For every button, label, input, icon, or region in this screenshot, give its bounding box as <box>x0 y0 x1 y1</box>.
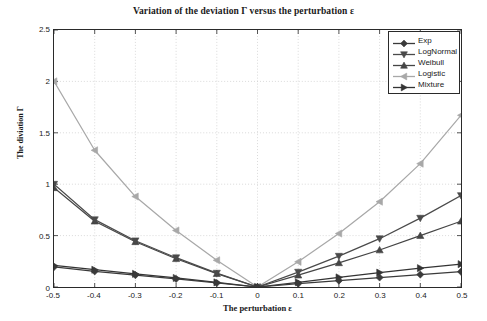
legend-marker-triangle-up-icon <box>392 57 416 68</box>
x-tick-label: -0.1 <box>195 291 239 300</box>
legend-label: Weibull <box>416 58 444 67</box>
x-axis-label: The perturbation ε <box>53 303 462 313</box>
legend-label: Exp <box>416 36 432 45</box>
x-tick-label: 0.5 <box>440 291 484 300</box>
x-tick-label: 0.1 <box>276 291 320 300</box>
x-tick-label: 0.2 <box>317 291 361 300</box>
y-tick-label: 0.5 <box>2 232 50 241</box>
legend[interactable]: ExpLogNormalWeibullLogisticMixture <box>388 31 460 94</box>
legend-marker-diamond-icon <box>392 35 416 46</box>
legend-label: Mixture <box>416 80 444 89</box>
legend-label: LogNormal <box>416 47 457 56</box>
legend-marker-triangle-left-icon <box>392 68 416 79</box>
series-exp <box>54 263 461 287</box>
legend-item-logistic[interactable]: Logistic <box>392 68 455 79</box>
y-axis-tick-labels: 00.511.522.5 <box>0 29 50 288</box>
x-tick-label: 0 <box>236 291 280 300</box>
x-tick-label: 0.4 <box>399 291 443 300</box>
x-tick-label: -0.4 <box>72 291 116 300</box>
x-tick-label: -0.3 <box>113 291 157 300</box>
legend-item-mixture[interactable]: Mixture <box>392 79 455 90</box>
y-tick-label: 2.5 <box>2 25 50 34</box>
x-tick-label: -0.2 <box>154 291 198 300</box>
legend-label: Logistic <box>416 69 445 78</box>
chart-title: Variation of the deviation Γ versus the … <box>0 6 487 16</box>
legend-marker-triangle-down-icon <box>392 46 416 57</box>
legend-marker-triangle-right-icon <box>392 79 416 90</box>
legend-item-exp[interactable]: Exp <box>392 35 455 46</box>
y-tick-label: 1 <box>2 180 50 189</box>
x-tick-label: -0.5 <box>31 291 75 300</box>
legend-item-weibull[interactable]: Weibull <box>392 57 455 68</box>
y-tick-label: 2 <box>2 76 50 85</box>
legend-item-lognormal[interactable]: LogNormal <box>392 46 455 57</box>
figure-canvas: Variation of the deviation Γ versus the … <box>0 0 487 321</box>
y-tick-label: 1.5 <box>2 128 50 137</box>
x-tick-label: 0.3 <box>358 291 402 300</box>
